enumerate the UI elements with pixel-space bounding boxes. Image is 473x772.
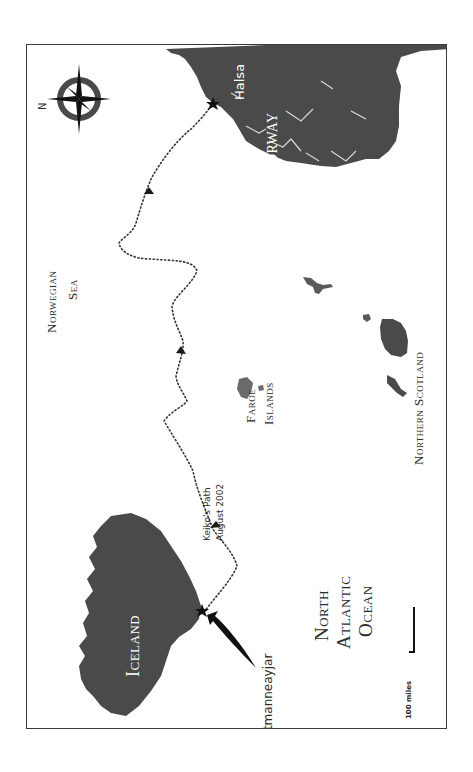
path-label-line2: August 2002 bbox=[215, 484, 225, 541]
path-direction-arrows bbox=[144, 187, 221, 528]
compass-north-label: N bbox=[37, 103, 48, 110]
map-canvas bbox=[27, 45, 447, 729]
north-atlantic-label-line2: Atlantic bbox=[336, 576, 352, 649]
path-label-line1: Keiko's Path bbox=[202, 487, 212, 541]
halsa-label: Halsa bbox=[232, 64, 247, 100]
scale-label: 100 miles bbox=[405, 681, 413, 719]
map-frame: N Halsa Norway Norwegian Sea Faroe Islan… bbox=[26, 44, 447, 729]
norway-landmass bbox=[166, 45, 447, 167]
faroe-label-line1: Faroe bbox=[243, 389, 259, 423]
arrow-icon bbox=[176, 346, 186, 354]
shetland-landmass bbox=[303, 277, 333, 294]
norway-label: Norway bbox=[259, 112, 282, 179]
scale-bar bbox=[409, 607, 414, 652]
hebrides-landmass bbox=[387, 375, 407, 397]
northern-scotland-label: Northern Scotland bbox=[411, 352, 427, 465]
norwegian-sea-label-line1: Norwegian bbox=[44, 271, 60, 333]
orkney-landmass bbox=[363, 314, 371, 322]
iceland-label: Iceland bbox=[123, 615, 144, 677]
vestmanneayjar-label: Vestmanneayjar bbox=[261, 654, 275, 729]
pointer-arrow-icon bbox=[207, 611, 256, 668]
norwegian-sea-label-line2: Sea bbox=[65, 279, 81, 300]
compass-rose-icon bbox=[47, 64, 111, 134]
arrow-icon bbox=[144, 187, 154, 194]
faroe-label-line2: Islands bbox=[261, 382, 277, 425]
north-atlantic-label-line3: Ocean bbox=[358, 585, 374, 637]
north-atlantic-label-line1: North bbox=[314, 590, 330, 641]
northern-scotland-landmass bbox=[380, 319, 408, 357]
